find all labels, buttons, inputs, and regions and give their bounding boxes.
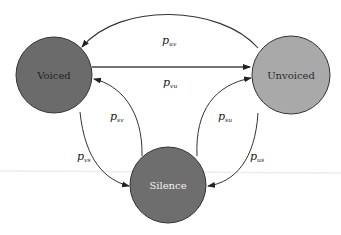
edge-vs [80,112,129,186]
edge-label-su: psu [218,110,232,123]
node-unvoiced-label: Unvoiced [267,70,315,81]
diagram-svg: Voiced Unvoiced Silence puv pvu psv pvs … [0,0,341,235]
node-voiced-label: Voiced [36,70,71,81]
edge-label-us: pus [250,150,264,163]
node-unvoiced: Unvoiced [252,36,330,114]
edge-label-vu: pvu [163,76,177,89]
edge-label-vs: pvs [77,150,91,163]
node-silence-label: Silence [149,180,186,191]
node-voiced: Voiced [16,37,92,113]
edge-label-sv: psv [110,110,124,123]
state-diagram: Voiced Unvoiced Silence puv pvu psv pvs … [0,0,341,235]
node-silence: Silence [130,147,206,223]
edge-label-uv: puv [162,34,177,47]
